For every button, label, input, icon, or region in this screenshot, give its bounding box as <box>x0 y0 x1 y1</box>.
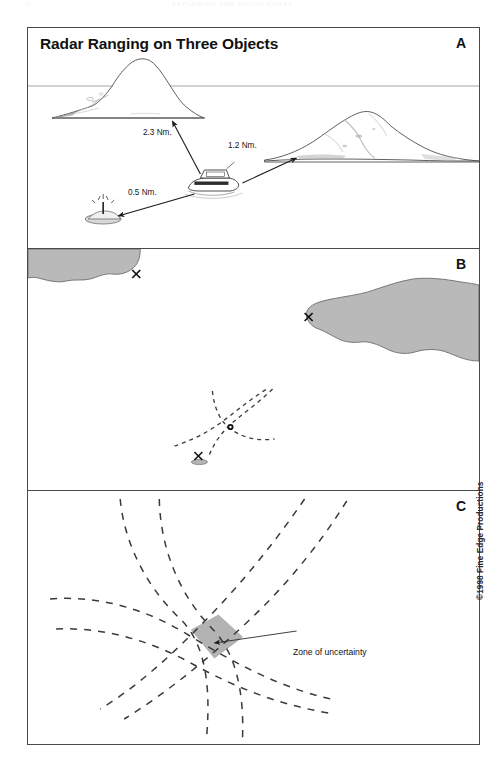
arc-b2 <box>124 501 346 719</box>
right-island <box>265 111 479 162</box>
arc-from-east <box>208 389 272 457</box>
running-header-title: EXPLORING THE SOUTH COAST <box>172 1 293 7</box>
panel-c-chart <box>28 491 479 745</box>
panel-a-illustration <box>28 28 479 248</box>
vessel <box>184 162 242 198</box>
rock-islet <box>85 194 121 224</box>
range-arc-pairs <box>50 499 347 739</box>
target-marks <box>132 270 312 321</box>
zone-of-uncertainty-shape <box>191 615 242 658</box>
landmass-east <box>306 278 479 361</box>
arc-a2 <box>159 499 242 739</box>
arc-c1 <box>50 598 331 699</box>
landmass-northwest <box>28 249 140 282</box>
zone-of-uncertainty-label: Zone of uncertainty <box>293 647 367 657</box>
figure-frame: Radar Ranging on Three Objects A <box>27 27 480 745</box>
arc-from-nw <box>212 391 274 440</box>
copyright-notice: ©1998 Fine Edge Productions <box>476 482 485 600</box>
arc-from-rock <box>174 388 268 446</box>
range-line-left-island <box>172 121 200 174</box>
left-island <box>52 59 204 118</box>
panel-a: Radar Ranging on Three Objects A <box>28 28 479 248</box>
target-mark-nw <box>132 270 140 278</box>
range-label-rock: 0.5 Nm. <box>128 188 157 197</box>
range-label-left-island: 2.3 Nm. <box>143 128 172 137</box>
page-folio: 76 <box>24 1 31 7</box>
range-line-rock <box>118 194 194 216</box>
arc-b1 <box>100 499 304 709</box>
panel-b: B <box>28 248 479 491</box>
panel-b-chart <box>28 249 479 491</box>
rock-target <box>191 452 207 465</box>
running-header: 76 EXPLORING THE SOUTH COAST <box>0 1 501 11</box>
range-arcs <box>174 388 274 457</box>
arc-a1 <box>120 499 208 739</box>
panel-c: C Zone of uncert <box>28 490 479 745</box>
range-label-right-island: 1.2 Nm. <box>228 141 257 150</box>
